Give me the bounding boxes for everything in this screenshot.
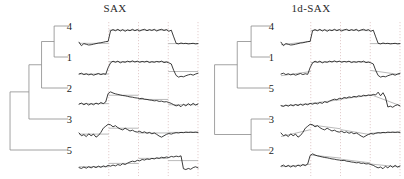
- dendrogram: [215, 26, 270, 150]
- dendrogram-leaf-label: 3: [67, 114, 72, 125]
- panel-sax: SAX 41235: [0, 0, 202, 179]
- dendrogram-leaf-label: 1: [269, 52, 274, 63]
- time-series-line: [281, 61, 400, 77]
- dendrogram-leaf-label: 4: [67, 21, 73, 32]
- dendrogram-leaf-label: 4: [269, 21, 275, 32]
- panel-1d-sax-plot: 41532: [202, 0, 404, 179]
- dendrogram: [10, 26, 68, 150]
- gridlines: [109, 22, 198, 176]
- dendrogram-leaf-label: 5: [269, 83, 274, 94]
- dendrogram-leaf-label: 3: [269, 114, 274, 125]
- leaf-labels: 41532: [269, 21, 275, 156]
- leaf-labels: 41235: [67, 21, 73, 156]
- dendrogram-leaf-label: 2: [67, 83, 72, 94]
- panel-1d-sax: 1d-SAX 41532: [202, 0, 404, 179]
- figure-root: SAX 41235 1d-SAX 41532: [0, 0, 404, 179]
- dendrogram-leaf-label: 5: [67, 145, 72, 156]
- panel-sax-plot: 41235: [0, 0, 202, 179]
- approximation-line: [79, 158, 198, 166]
- dendrogram-leaf-label: 2: [269, 145, 274, 156]
- gridlines: [311, 22, 400, 176]
- time-series-line: [79, 61, 198, 77]
- series-group: [281, 29, 400, 168]
- dendrogram-leaf-label: 1: [67, 52, 72, 63]
